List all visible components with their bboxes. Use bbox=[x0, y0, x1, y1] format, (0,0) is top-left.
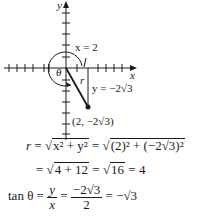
equals: = bbox=[57, 188, 71, 203]
radicand-3: 4 + 12 bbox=[54, 162, 89, 177]
numerator: −2√3 bbox=[71, 183, 102, 198]
x-axis-label: x bbox=[129, 69, 135, 81]
result: = 4 bbox=[125, 162, 145, 177]
equals: = bbox=[89, 138, 103, 153]
equals: = bbox=[31, 138, 45, 153]
radius-line bbox=[66, 68, 88, 107]
y-axis-arrow-icon bbox=[63, 1, 69, 8]
radicand-1: x² + y² bbox=[52, 138, 89, 153]
coordinate-diagram: y x θ r x = 2 y = −2√3 (2, −2√3) bbox=[0, 0, 206, 140]
vertical-line-label: x = 2 bbox=[75, 41, 98, 53]
theta-label: θ bbox=[56, 66, 62, 78]
r-equation-line2: = √4 + 12 = √16 = 4 bbox=[36, 162, 145, 178]
fraction-y-over-x: yx bbox=[47, 183, 57, 212]
tan-lhs: tan θ = bbox=[8, 188, 47, 203]
radicand-4: 16 bbox=[110, 162, 125, 177]
radicand-2: (2)² + (−2√3)² bbox=[110, 138, 185, 153]
tan-equation: tan θ = yx = −2√32 = −√3 bbox=[8, 183, 137, 212]
y-value-label: y = −2√3 bbox=[92, 82, 133, 94]
denominator: 2 bbox=[83, 198, 90, 212]
fraction-value: −2√32 bbox=[71, 183, 102, 212]
result: = −√3 bbox=[102, 188, 137, 203]
y-axis-label: y bbox=[56, 0, 62, 11]
denominator: x bbox=[49, 198, 55, 212]
r-label: r bbox=[80, 74, 85, 86]
label-pointer bbox=[84, 58, 86, 67]
r-equation-line1: r = √x² + y² = √(2)² + (−2√3)² bbox=[26, 138, 185, 154]
point-marker bbox=[86, 105, 91, 110]
equals: = bbox=[89, 162, 103, 177]
numerator: y bbox=[47, 183, 57, 198]
equals: = bbox=[36, 162, 47, 177]
point-label: (2, −2√3) bbox=[72, 115, 114, 128]
